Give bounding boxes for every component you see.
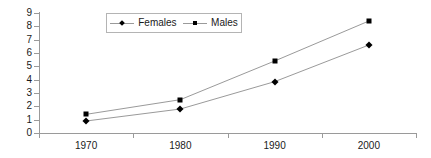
x-tick-label-1980: 1980 (150, 140, 210, 151)
x-tick-3 (322, 133, 323, 138)
diamond-marker-females-1970 (83, 117, 90, 124)
legend-line-males (183, 23, 207, 24)
legend-line-females (110, 23, 134, 24)
y-tick-1 (34, 120, 39, 121)
diamond-marker-females-2000 (365, 41, 372, 48)
x-tick-0 (39, 133, 40, 138)
line-chart: 9876543210 1970198019902000 Females Male… (0, 0, 431, 158)
y-tick-label-6: 6 (6, 48, 32, 58)
x-tick-1 (133, 133, 134, 138)
x-tick-label-2000: 2000 (339, 140, 399, 151)
square-marker-males-1970 (84, 112, 89, 117)
legend-label-females: Females (138, 18, 176, 28)
y-tick-4 (34, 80, 39, 81)
y-tick-5 (34, 66, 39, 67)
square-marker-males-2000 (366, 19, 371, 24)
series-line-males (86, 21, 369, 114)
legend-item-males[interactable]: Males (183, 18, 238, 28)
y-axis-line (39, 12, 40, 134)
y-tick-label-0: 0 (6, 128, 32, 138)
legend-label-males: Males (211, 18, 238, 28)
diamond-marker-females-1990 (271, 78, 278, 85)
y-tick-label-9: 9 (6, 8, 32, 18)
y-tick-3 (34, 93, 39, 94)
y-tick-7 (34, 40, 39, 41)
x-tick-4 (416, 133, 417, 138)
y-tick-8 (34, 26, 39, 27)
y-tick-label-3: 3 (6, 88, 32, 98)
y-tick-label-1: 1 (6, 115, 32, 125)
diamond-marker-females-1980 (177, 105, 184, 112)
series-line-females (86, 45, 369, 121)
y-tick-label-4: 4 (6, 75, 32, 85)
legend-item-females[interactable]: Females (110, 18, 176, 28)
y-tick-9 (34, 13, 39, 14)
x-tick-label-1990: 1990 (245, 140, 305, 151)
x-tick-label-1970: 1970 (56, 140, 116, 151)
square-marker-icon (193, 21, 197, 25)
chart-legend: Females Males (106, 13, 242, 33)
y-tick-label-2: 2 (6, 101, 32, 111)
y-tick-2 (34, 106, 39, 107)
y-tick-6 (34, 53, 39, 54)
y-tick-label-7: 7 (6, 35, 32, 45)
diamond-marker-icon (119, 20, 125, 26)
x-tick-2 (228, 133, 229, 138)
y-tick-label-8: 8 (6, 21, 32, 31)
square-marker-males-1990 (272, 59, 277, 64)
y-tick-label-5: 5 (6, 61, 32, 71)
square-marker-males-1980 (178, 97, 183, 102)
